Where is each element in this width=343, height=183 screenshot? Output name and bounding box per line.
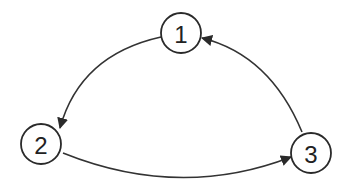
node-2: 2 [21, 124, 61, 164]
edge-3-to-1 [202, 38, 302, 132]
node-1: 1 [161, 13, 201, 53]
node-1-label: 1 [174, 21, 187, 48]
node-2-label: 2 [34, 132, 47, 159]
edge-1-to-2 [60, 37, 161, 128]
node-3-label: 3 [304, 141, 317, 168]
cycle-diagram: 1 2 3 [0, 0, 343, 183]
node-3: 3 [291, 133, 331, 173]
diagram-svg: 1 2 3 [0, 0, 343, 183]
edge-2-to-3 [63, 153, 291, 178]
